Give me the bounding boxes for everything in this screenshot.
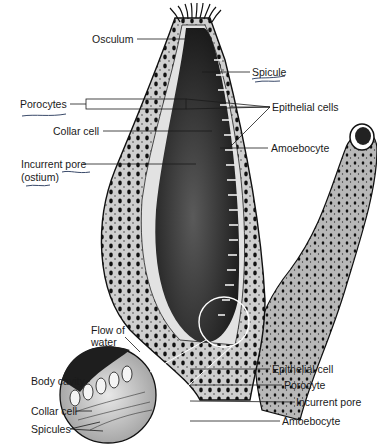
label-porocytes: Porocytes [20, 98, 67, 110]
sponge-body [101, 3, 265, 400]
label-inset-collar-cell: Collar cell [31, 405, 77, 417]
sponge-bud [255, 124, 377, 420]
label-body-cavity: Body cavity [31, 375, 85, 387]
sponge-diagram: Osculum Spicule Porocytes Epithelial cel… [0, 0, 377, 444]
label-porocyte: Porocyte [284, 379, 325, 391]
label-flow-of-water-1: Flow of [91, 324, 125, 336]
label-incurrent-pore: Incurrent pore [21, 158, 86, 170]
label-flow-of-water-2: water [91, 336, 117, 348]
label-collar-cell: Collar cell [53, 125, 99, 137]
label-spicule: Spicule [252, 66, 286, 78]
label-inset-incurrent-pore: Incurrent pore [296, 396, 361, 408]
label-amoebocyte: Amoebocyte [271, 142, 329, 154]
label-epithelial-cells: Epithelial cells [272, 101, 339, 113]
label-ostium: (ostium) [21, 171, 59, 183]
label-spicules: Spicules [31, 423, 71, 435]
label-inset-amoebocyte: Amoebocyte [282, 415, 340, 427]
label-osculum: Osculum [92, 33, 133, 45]
label-epithelial-cell: Epithelial cell [272, 363, 333, 375]
